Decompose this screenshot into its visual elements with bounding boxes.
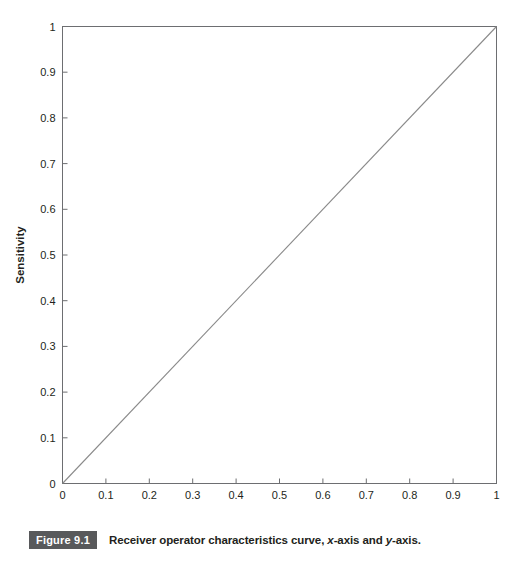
figure-container: 00.10.20.30.40.50.60.70.80.91 00.10.20.3… <box>0 0 528 567</box>
x-tick-label: 0.8 <box>402 489 417 501</box>
figure-caption-row: Figure 9.1 Receiver operator characteris… <box>0 527 528 553</box>
y-tick-label: 0 <box>49 478 55 490</box>
x-tick-label: 0.7 <box>359 489 374 501</box>
x-tick-label: 0 <box>59 489 65 501</box>
x-tick-label: 0.2 <box>142 489 157 501</box>
caption-mid: -axis and <box>334 534 386 546</box>
x-tick-label: 0.1 <box>98 489 113 501</box>
figure-caption-text: Receiver operator characteristics curve,… <box>109 534 421 546</box>
x-tick-label: 1 <box>493 489 499 501</box>
x-tick-label: 0.6 <box>315 489 330 501</box>
roc-chart: 00.10.20.30.40.50.60.70.80.91 00.10.20.3… <box>0 0 528 500</box>
figure-number-badge: Figure 9.1 <box>29 531 97 549</box>
x-tick-label: 0.9 <box>445 489 460 501</box>
y-tick-label: 0.6 <box>40 203 55 215</box>
x-tick-label: 0.4 <box>228 489 243 501</box>
y-tick-label: 1 <box>49 21 55 33</box>
y-tick-label: 0.1 <box>40 432 55 444</box>
y-tick-label: 0.2 <box>40 386 55 398</box>
y-tick-label: 0.4 <box>40 295 55 307</box>
y-tick-label: 0.7 <box>40 158 55 170</box>
y-tick-label: 0.5 <box>40 249 55 261</box>
y-tick-label: 0.8 <box>40 112 55 124</box>
x-tick-label: 0.5 <box>272 489 287 501</box>
y-tick-label: 0.9 <box>40 66 55 78</box>
caption-suffix: -axis. <box>392 534 421 546</box>
x-axis-tick-labels: 00.10.20.30.40.50.60.70.80.91 <box>59 489 499 501</box>
x-tick-label: 0.3 <box>185 489 200 501</box>
y-tick-label: 0.3 <box>40 340 55 352</box>
chart-svg: 00.10.20.30.40.50.60.70.80.91 00.10.20.3… <box>0 0 528 500</box>
y-axis-title: Sensitivity <box>14 226 26 284</box>
y-axis-tick-labels: 00.10.20.30.40.50.60.70.80.91 <box>40 21 55 490</box>
caption-prefix: Receiver operator characteristics curve, <box>109 534 327 546</box>
